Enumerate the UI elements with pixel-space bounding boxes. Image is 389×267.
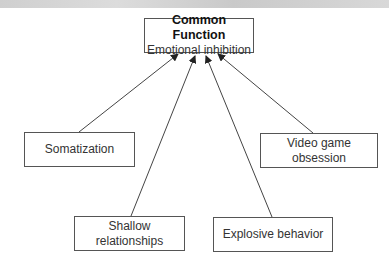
edge-somatization <box>79 54 178 132</box>
node-label: Somatization <box>45 142 114 157</box>
root-subtitle: Emotional inhibition <box>147 43 251 58</box>
node-video-game: Video game obsession <box>260 133 378 168</box>
node-label-2: obsession <box>292 151 346 166</box>
node-label-2: relationships <box>96 234 163 249</box>
node-label: Explosive behavior <box>223 227 324 242</box>
node-shallow: Shallow relationships <box>74 216 185 251</box>
root-node: Common Function Emotional inhibition <box>144 18 254 53</box>
node-explosive: Explosive behavior <box>213 217 333 252</box>
edge-shallow <box>131 56 195 216</box>
root-title: Common Function <box>145 13 253 43</box>
node-label: Video game <box>287 136 351 151</box>
node-label: Shallow <box>108 219 150 234</box>
node-somatization: Somatization <box>24 132 135 167</box>
